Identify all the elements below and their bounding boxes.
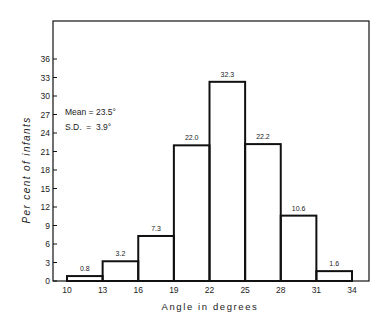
y-tick-label: 33 xyxy=(41,73,51,83)
y-tick-label: 30 xyxy=(41,91,51,101)
y-tick-label: 12 xyxy=(41,202,51,212)
x-tick-label: 25 xyxy=(240,285,250,295)
y-tick-label: 27 xyxy=(41,110,51,120)
bar-value-label: 32.3 xyxy=(221,71,235,78)
bar-value-label: 22.2 xyxy=(256,133,270,140)
histogram-bar xyxy=(138,236,174,281)
bar-value-label: 3.2 xyxy=(116,250,126,257)
x-tick-label: 19 xyxy=(169,285,179,295)
plot-frame xyxy=(53,21,369,281)
y-tick-label: 21 xyxy=(41,147,51,157)
histogram-bar xyxy=(67,276,103,281)
y-tick-label: 18 xyxy=(41,165,51,175)
x-axis-title: Angle in degrees xyxy=(162,301,259,312)
y-tick-label: 15 xyxy=(41,184,51,194)
y-axis-title: Per cent of infants xyxy=(21,116,32,223)
bar-value-label: 10.6 xyxy=(292,205,306,212)
histogram-bar xyxy=(281,216,317,281)
x-tick-label: 34 xyxy=(347,285,357,295)
bar-value-label: 0.8 xyxy=(80,265,90,272)
x-tick-label: 28 xyxy=(276,285,286,295)
sd-annotation: S.D. = 3.9° xyxy=(65,122,111,132)
x-axis: 101316192225283134 xyxy=(62,285,357,295)
histogram-bar xyxy=(316,271,352,281)
y-tick-label: 0 xyxy=(45,276,50,286)
y-tick-label: 9 xyxy=(45,221,50,231)
x-tick-label: 10 xyxy=(62,285,72,295)
bar-value-label: 1.6 xyxy=(329,260,339,267)
bar-value-label: 22.0 xyxy=(185,134,199,141)
histogram-bar xyxy=(103,261,139,281)
y-tick-label: 3 xyxy=(45,258,50,268)
x-tick-label: 31 xyxy=(312,285,322,295)
y-tick-label: 6 xyxy=(45,239,50,249)
x-tick-label: 22 xyxy=(205,285,215,295)
y-tick-label: 36 xyxy=(41,54,51,64)
histogram-bar xyxy=(245,144,281,281)
x-tick-label: 16 xyxy=(134,285,144,295)
plot-border xyxy=(53,21,369,281)
x-tick-label: 13 xyxy=(98,285,108,295)
histogram-bar xyxy=(174,145,210,281)
histogram-chart: 0369121518212427303336 10131619222528313… xyxy=(0,0,387,321)
bar-value-label: 7.3 xyxy=(151,225,161,232)
histogram-bar xyxy=(210,82,246,281)
y-axis: 0369121518212427303336 xyxy=(41,54,57,286)
mean-annotation: Mean = 23.5° xyxy=(65,107,116,117)
y-tick-label: 24 xyxy=(41,128,51,138)
